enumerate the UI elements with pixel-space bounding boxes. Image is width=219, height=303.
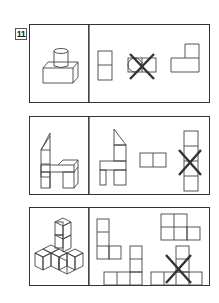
option-view-c-icon — [171, 44, 199, 72]
option-view-c-icon — [161, 214, 200, 240]
option-view-a-icon — [98, 51, 112, 80]
solid-chair-assembly-icon — [41, 133, 78, 188]
row-3-drawing — [30, 208, 211, 289]
row-2-drawing — [30, 117, 211, 196]
question-row-2 — [29, 116, 210, 195]
option-view-b-icon — [140, 153, 166, 167]
option-view-b-icon — [104, 246, 142, 285]
solid-stacked-cubes-icon — [35, 218, 83, 274]
option-view-a-icon — [97, 219, 121, 259]
row-1-drawing — [30, 25, 211, 104]
option-view-b-icon — [128, 54, 156, 79]
solid-cylinder-on-block-icon — [43, 49, 78, 84]
option-view-c-icon — [179, 131, 201, 191]
question-number-label: 11 — [15, 28, 27, 40]
question-row-3 — [29, 207, 210, 286]
question-row-1 — [29, 24, 210, 103]
option-view-a-icon — [100, 129, 126, 185]
option-view-d-icon — [151, 246, 202, 285]
